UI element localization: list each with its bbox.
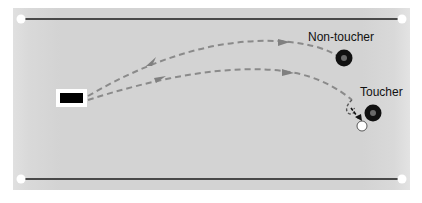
corner-dot-bottom-left	[17, 175, 26, 184]
non-toucher-target-center	[341, 55, 347, 61]
ball-icon	[357, 121, 367, 131]
toucher-label: Toucher	[360, 86, 403, 98]
corner-dot-top-right	[398, 15, 407, 24]
toucher-target-center	[370, 110, 376, 116]
non-toucher-label: Non-toucher	[308, 31, 374, 43]
start-block	[60, 93, 83, 103]
corner-dot-bottom-right	[398, 175, 407, 184]
diagram-stage: Non-toucher Toucher	[0, 0, 422, 203]
corner-dot-top-left	[17, 15, 26, 24]
